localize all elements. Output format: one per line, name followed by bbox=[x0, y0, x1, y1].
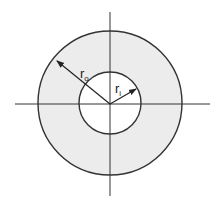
annulus-diagram: ro ri bbox=[0, 0, 218, 205]
